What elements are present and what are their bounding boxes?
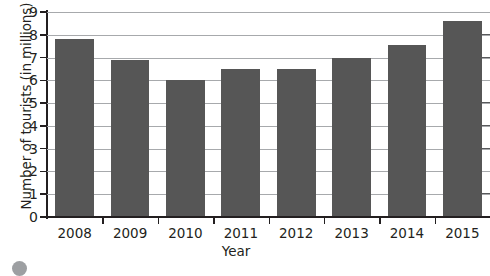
x-axis-tick-label: 2012 xyxy=(279,224,313,242)
bar-2010 xyxy=(166,80,205,217)
y-axis-tick-label: 0 xyxy=(29,210,38,224)
y-axis-tick-label: 8 xyxy=(29,28,38,42)
cropped-bullet-icon xyxy=(12,261,27,276)
x-axis-tick-label: 2015 xyxy=(445,224,479,242)
y-axis-tick-label: 5 xyxy=(29,96,38,110)
bar-2009 xyxy=(111,60,150,217)
y-axis-tick-labels: 0123456789 xyxy=(16,12,38,217)
y-axis-tick-label: 9 xyxy=(29,5,38,19)
x-axis-tick-labels: 20082009201020112012201320142015 xyxy=(47,224,490,242)
x-axis-title: Year xyxy=(0,243,490,259)
bar-2015 xyxy=(443,21,482,217)
y-axis-tick-label: 7 xyxy=(29,51,38,65)
bar-2014 xyxy=(388,45,427,217)
x-axis-tick-label: 2011 xyxy=(224,224,258,242)
x-axis-tick-label: 2010 xyxy=(168,224,202,242)
x-axis-tick-label: 2008 xyxy=(58,224,92,242)
y-axis-tick-label: 1 xyxy=(29,187,38,201)
plot-area xyxy=(47,12,490,217)
x-axis-tick-label: 2009 xyxy=(113,224,147,242)
bar-2012 xyxy=(277,69,316,217)
bar-2011 xyxy=(221,69,260,217)
bar-2013 xyxy=(332,58,371,217)
x-axis-tick-label: 2013 xyxy=(334,224,368,242)
x-axis-title-text: Year xyxy=(222,243,251,259)
bars-layer xyxy=(47,12,490,217)
y-axis-tick-label: 2 xyxy=(29,164,38,178)
y-axis-tick-label: 4 xyxy=(29,119,38,133)
y-axis-tick-label: 3 xyxy=(29,142,38,156)
y-axis-tick-label: 6 xyxy=(29,73,38,87)
bar-2008 xyxy=(55,39,94,217)
x-axis-tick-label: 2014 xyxy=(390,224,424,242)
